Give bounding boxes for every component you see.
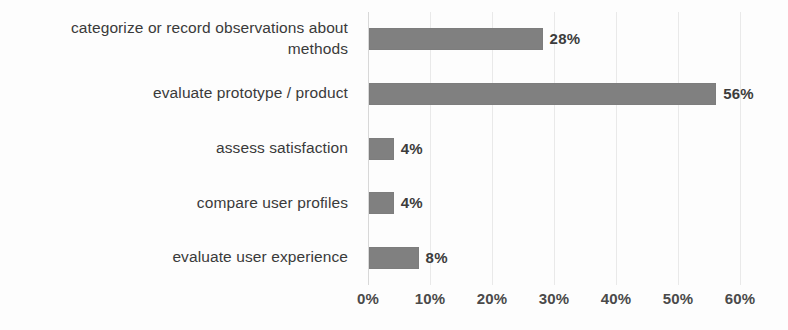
bar	[369, 192, 394, 214]
value-axis-tick-label: 40%	[601, 290, 632, 307]
value-axis-tick-label: 50%	[663, 290, 694, 307]
category-label: evaluate prototype / product	[10, 83, 348, 104]
category-label: compare user profiles	[10, 193, 348, 214]
value-axis-tick-label: 20%	[477, 290, 508, 307]
category-label: assess satisfaction	[10, 138, 348, 159]
gridline	[492, 12, 493, 285]
gridline	[430, 12, 431, 285]
bar	[369, 28, 543, 50]
bar-value-label: 8%	[426, 249, 448, 266]
category-axis-labels: categorize or record observations about …	[10, 12, 358, 285]
category-label: evaluate user experience	[10, 247, 348, 268]
bar-chart: categorize or record observations about …	[0, 0, 788, 330]
bar-value-label: 4%	[401, 194, 423, 211]
gridline	[678, 12, 679, 285]
value-axis-tick-label: 30%	[539, 290, 570, 307]
bar	[369, 83, 716, 105]
bar-value-label: 56%	[723, 85, 754, 102]
bar-value-label: 4%	[401, 140, 423, 157]
value-axis-tick-labels: 0%10%20%30%40%50%60%	[368, 290, 740, 316]
gridline	[616, 12, 617, 285]
value-axis-tick-label: 0%	[357, 290, 379, 307]
gridline	[740, 12, 741, 285]
value-axis-tick-label: 60%	[725, 290, 756, 307]
value-axis-tick-label: 10%	[415, 290, 446, 307]
bar	[369, 247, 419, 269]
gridline	[554, 12, 555, 285]
category-label: categorize or record observations about …	[10, 18, 348, 60]
bar-value-label: 28%	[550, 30, 581, 47]
plot-area: 28%56%4%4%8%	[368, 12, 740, 285]
bar	[369, 138, 394, 160]
